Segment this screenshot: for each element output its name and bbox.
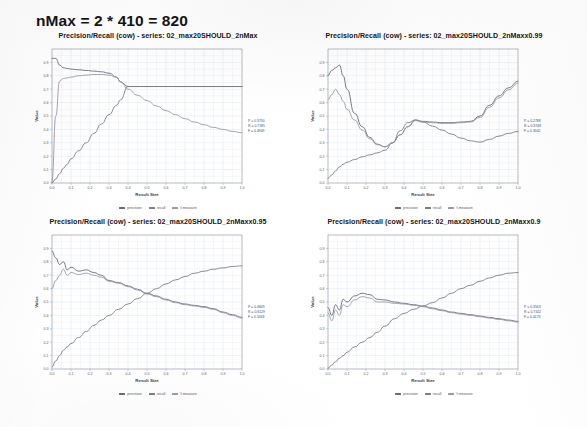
- svg-text:1.0: 1.0: [240, 186, 245, 190]
- svg-text:0.5: 0.5: [320, 300, 325, 304]
- svg-text:Value: Value: [310, 110, 315, 122]
- metrics-annotation: P = 0.3730R = 0.7185F = 0.4909: [248, 119, 265, 134]
- plot-area: 0.00.10.20.30.40.50.60.70.80.90.00.10.20…: [22, 43, 294, 209]
- legend-label: precision: [403, 392, 418, 396]
- svg-text:0.1: 0.1: [345, 186, 350, 190]
- legend-swatch-icon: [119, 207, 125, 208]
- legend-entry[interactable]: recall: [425, 206, 442, 210]
- metrics-annotation: P = 0.3563R = 0.7102F = 0.4173: [524, 305, 541, 320]
- legend-entry[interactable]: precision: [395, 392, 418, 396]
- svg-text:0.1: 0.1: [69, 372, 74, 376]
- svg-text:0.5: 0.5: [421, 372, 426, 376]
- svg-text:0.0: 0.0: [320, 367, 325, 371]
- svg-text:0.1: 0.1: [69, 186, 74, 190]
- charts-grid: Precision/Recall (cow) - series: 02_max2…: [0, 32, 587, 422]
- legend-entry[interactable]: recall: [149, 392, 166, 396]
- svg-text:0.1: 0.1: [44, 354, 49, 358]
- svg-text:0.0: 0.0: [326, 372, 331, 376]
- legend-swatch-icon: [172, 207, 178, 208]
- svg-text:0.3: 0.3: [383, 372, 388, 376]
- svg-text:0.1: 0.1: [345, 372, 350, 376]
- svg-text:0.6: 0.6: [44, 101, 49, 105]
- chart-legend: precisionrecallf-measure: [298, 392, 570, 396]
- svg-text:0.4: 0.4: [44, 128, 49, 132]
- svg-text:0.8: 0.8: [320, 74, 325, 78]
- svg-text:0.0: 0.0: [44, 181, 49, 185]
- svg-text:0.4: 0.4: [320, 128, 325, 132]
- svg-text:0.4: 0.4: [402, 186, 407, 190]
- svg-text:0.9: 0.9: [320, 247, 325, 251]
- svg-text:0.9: 0.9: [497, 372, 502, 376]
- metrics-annotation-line: F = 0.3042: [524, 129, 541, 134]
- svg-text:0.6: 0.6: [44, 287, 49, 291]
- legend-entry[interactable]: precision: [395, 206, 418, 210]
- chart-title: Precision/Recall (cow) - series: 02_max2…: [22, 218, 294, 226]
- svg-text:0.6: 0.6: [320, 287, 325, 291]
- chart-title: Precision/Recall (cow) - series: 02_max2…: [298, 218, 570, 226]
- svg-text:0.6: 0.6: [440, 372, 445, 376]
- plot-area: 0.00.10.20.30.40.50.60.70.80.90.00.10.20…: [298, 43, 570, 209]
- svg-text:0.2: 0.2: [44, 341, 49, 345]
- svg-text:0.8: 0.8: [202, 186, 207, 190]
- svg-text:0.9: 0.9: [497, 186, 502, 190]
- legend-entry[interactable]: f-measure: [448, 206, 472, 210]
- legend-swatch-icon: [395, 393, 401, 394]
- chart-title: Precision/Recall (cow) - series: 02_max2…: [22, 32, 294, 40]
- legend-entry[interactable]: f-measure: [172, 206, 196, 210]
- legend-label: recall: [157, 206, 166, 210]
- chart-legend: precisionrecallf-measure: [298, 206, 570, 210]
- chart-panel-top-right: Precision/Recall (cow) - series: 02_max2…: [298, 32, 570, 222]
- svg-text:0.8: 0.8: [202, 372, 207, 376]
- svg-text:Value: Value: [34, 296, 39, 308]
- svg-text:1.0: 1.0: [516, 186, 521, 190]
- svg-text:0.9: 0.9: [221, 372, 226, 376]
- legend-entry[interactable]: precision: [119, 206, 142, 210]
- svg-text:0.2: 0.2: [88, 372, 93, 376]
- legend-swatch-icon: [395, 207, 401, 208]
- legend-label: precision: [127, 392, 142, 396]
- svg-text:0.4: 0.4: [126, 372, 131, 376]
- legend-entry[interactable]: recall: [425, 392, 442, 396]
- svg-text:1.0: 1.0: [240, 372, 245, 376]
- svg-text:0.1: 0.1: [320, 168, 325, 172]
- legend-swatch-icon: [425, 393, 431, 394]
- svg-text:0.7: 0.7: [320, 274, 325, 278]
- legend-entry[interactable]: f-measure: [448, 392, 472, 396]
- metrics-annotation: P = 0.2788R = 0.3748F = 0.3042: [524, 119, 541, 134]
- page-title: nMax = 2 * 410 = 820: [36, 12, 188, 30]
- legend-entry[interactable]: precision: [119, 392, 142, 396]
- legend-swatch-icon: [425, 207, 431, 208]
- svg-text:0.3: 0.3: [320, 141, 325, 145]
- svg-text:0.1: 0.1: [44, 168, 49, 172]
- svg-text:0.2: 0.2: [88, 186, 93, 190]
- svg-text:0.5: 0.5: [145, 186, 150, 190]
- plot-area: 0.00.10.20.30.40.50.60.70.80.90.00.10.20…: [22, 229, 294, 395]
- svg-text:0.2: 0.2: [320, 155, 325, 159]
- chart-panel-top-left: Precision/Recall (cow) - series: 02_max2…: [22, 32, 294, 222]
- legend-label: f-measure: [456, 392, 472, 396]
- legend-swatch-icon: [172, 393, 178, 394]
- chart-legend: precisionrecallf-measure: [22, 206, 294, 210]
- svg-text:0.8: 0.8: [320, 260, 325, 264]
- svg-text:0.5: 0.5: [44, 300, 49, 304]
- svg-text:0.5: 0.5: [145, 372, 150, 376]
- svg-text:0.5: 0.5: [44, 114, 49, 118]
- legend-entry[interactable]: f-measure: [172, 392, 196, 396]
- svg-text:Result Size: Result Size: [135, 378, 159, 383]
- svg-text:0.6: 0.6: [440, 186, 445, 190]
- svg-text:0.2: 0.2: [44, 155, 49, 159]
- svg-text:0.7: 0.7: [183, 372, 188, 376]
- svg-text:0.3: 0.3: [383, 186, 388, 190]
- svg-text:Result Size: Result Size: [411, 378, 435, 383]
- legend-entry[interactable]: recall: [149, 206, 166, 210]
- svg-text:0.4: 0.4: [44, 314, 49, 318]
- svg-text:0.1: 0.1: [320, 354, 325, 358]
- metrics-annotation-line: F = 0.5063: [248, 315, 265, 320]
- svg-text:0.7: 0.7: [459, 372, 464, 376]
- chart-panel-bottom-right: Precision/Recall (cow) - series: 02_max2…: [298, 218, 570, 408]
- legend-label: recall: [157, 392, 166, 396]
- legend-label: precision: [403, 206, 418, 210]
- metrics-annotation: P = 0.4609R = 0.6129F = 0.5063: [248, 305, 265, 320]
- legend-label: f-measure: [180, 392, 196, 396]
- svg-text:0.0: 0.0: [50, 186, 55, 190]
